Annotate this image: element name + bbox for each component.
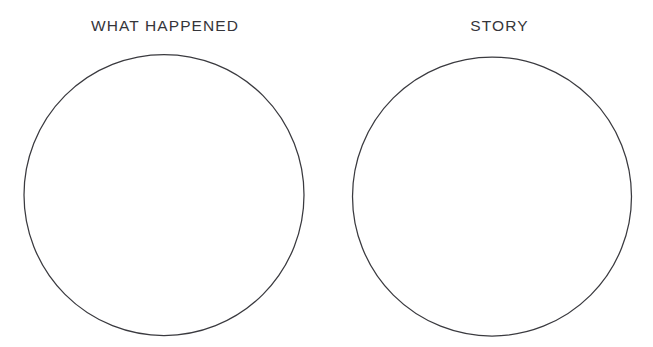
circle-label-what-happened: WHAT HAPPENED bbox=[0, 17, 330, 35]
worksheet-canvas: WHAT HAPPENED STORY bbox=[0, 0, 653, 347]
circle-what-happened-writing-area[interactable] bbox=[25, 56, 303, 335]
circles-interaction-layer bbox=[0, 0, 653, 347]
circle-story-writing-area[interactable] bbox=[354, 58, 631, 335]
circle-label-story: STORY bbox=[352, 17, 647, 35]
